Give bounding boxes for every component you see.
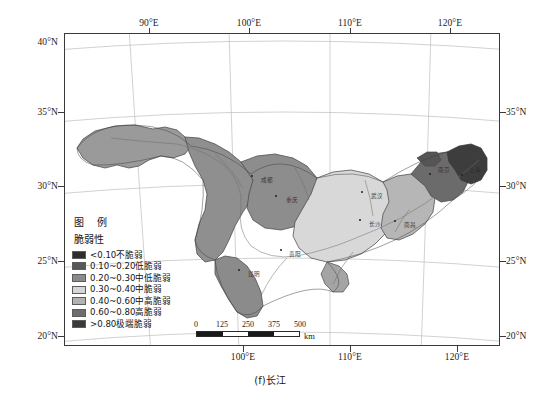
legend-item-1[interactable]: 0.10~0.20低脆弱 — [72, 261, 202, 273]
city-label-kunming: 昆明 — [248, 270, 260, 278]
tickmark-right-20n — [500, 336, 506, 337]
scale-bar-graphic — [196, 331, 300, 337]
tickmark-left-25n — [58, 261, 64, 262]
legend-item-3[interactable]: 0.30~0.40中脆弱 — [72, 284, 202, 296]
legend-item-2[interactable]: 0.20~0.30中低脆弱 — [72, 272, 202, 284]
scale-tick-0: 0 — [194, 320, 198, 329]
figure-caption: (f)长江 — [0, 372, 540, 387]
ytick-left-35n: 35°N — [24, 107, 58, 117]
city-dot-shanghai — [461, 174, 463, 176]
legend-item-4[interactable]: 0.40~0.60中高脆弱 — [72, 295, 202, 307]
tickmark-right-25n — [500, 261, 506, 262]
ytick-left-20n: 20°N — [24, 331, 58, 341]
tickmark-left-35n — [58, 112, 64, 113]
city-dot-guiyang — [280, 249, 282, 251]
city-dot-chongqing — [275, 195, 277, 197]
tickmark-top-120e — [450, 28, 451, 34]
xtick-top-110e: 110°E — [338, 18, 362, 28]
city-dot-nanjing — [429, 173, 431, 175]
ytick-right-30n: 30°N — [506, 181, 527, 191]
legend-swatch-3 — [72, 286, 86, 294]
tickmark-right-35n — [500, 112, 506, 113]
city-label-changsha: 长沙 — [369, 220, 381, 228]
legend-swatch-6 — [72, 320, 86, 328]
city-label-shanghai: 上海 — [469, 166, 481, 174]
legend-item-6[interactable]: >0.80极端脆弱 — [72, 319, 202, 331]
legend-label-1: 0.10~0.20低脆弱 — [90, 262, 162, 271]
xtick-bottom-100e: 100°E — [231, 352, 255, 362]
city-dot-kunming — [238, 269, 240, 271]
ytick-left-40n: 40°N — [24, 37, 58, 47]
legend-swatch-0 — [72, 251, 86, 259]
scale-tick-500: 500 — [294, 320, 306, 329]
scale-segment-1 — [223, 332, 249, 336]
city-label-chengdu: 成都 — [261, 176, 273, 184]
tickmark-left-30n — [58, 186, 64, 187]
tickmark-top-110e — [350, 28, 351, 34]
city-label-chongqing: 重庆 — [286, 196, 298, 204]
city-dot-nanchang — [394, 220, 396, 222]
city-dot-wuhan — [361, 191, 363, 193]
legend-item-0[interactable]: <0.10不脆弱 — [72, 249, 202, 261]
legend-label-4: 0.40~0.60中高脆弱 — [90, 297, 171, 306]
legend-label-5: 0.60~0.80高脆弱 — [90, 308, 162, 317]
map-legend[interactable]: 图 例 脆弱性 <0.10不脆弱 0.10~0.20低脆弱 0.20~0.30中… — [72, 214, 202, 330]
city-label-nanchang: 南昌 — [404, 221, 416, 229]
ytick-left-25n: 25°N — [24, 256, 58, 266]
tickmark-left-20n — [58, 336, 64, 337]
legend-swatch-5 — [72, 309, 86, 317]
xtick-top-100e: 100°E — [237, 18, 261, 28]
xtick-top-120e: 120°E — [438, 18, 462, 28]
city-label-nanjing: 南京 — [438, 166, 450, 174]
ytick-right-35n: 35°N — [506, 107, 527, 117]
scale-tick-250: 250 — [242, 320, 254, 329]
tickmark-right-30n — [500, 186, 506, 187]
city-dot-changsha — [359, 219, 361, 221]
tickmark-bottom-120e — [457, 346, 458, 352]
scale-tick-125: 125 — [216, 320, 228, 329]
scale-bar: 0 125 250 375 500 km — [196, 320, 300, 337]
tickmark-top-100e — [249, 28, 250, 34]
ytick-right-20n: 20°N — [506, 331, 527, 341]
scale-bar-ticks: 0 125 250 375 500 — [196, 320, 300, 331]
xtick-bottom-120e: 120°E — [445, 352, 469, 362]
legend-item-5[interactable]: 0.60~0.80高脆弱 — [72, 307, 202, 319]
legend-swatch-1 — [72, 262, 86, 270]
tickmark-bottom-100e — [243, 346, 244, 352]
legend-label-3: 0.30~0.40中脆弱 — [90, 285, 162, 294]
legend-subtitle: 脆弱性 — [72, 231, 202, 246]
legend-swatch-4 — [72, 297, 86, 305]
basin-region-south-tongue[interactable] — [321, 262, 349, 292]
city-label-wuhan: 武汉 — [371, 192, 383, 200]
scale-segment-0 — [197, 332, 223, 336]
ytick-right-25n: 25°N — [506, 256, 527, 266]
scale-segment-3 — [274, 332, 300, 336]
scale-segment-2 — [248, 332, 274, 336]
legend-label-2: 0.20~0.30中低脆弱 — [90, 274, 171, 283]
ytick-left-30n: 30°N — [24, 181, 58, 191]
legend-label-0: <0.10不脆弱 — [90, 251, 143, 260]
legend-swatch-2 — [72, 274, 86, 282]
city-label-guiyang: 贵阳 — [289, 250, 301, 258]
xtick-bottom-110e: 110°E — [338, 352, 362, 362]
city-dot-chengdu — [251, 175, 253, 177]
scale-bar-unit: km — [304, 331, 315, 341]
map-figure: 成都 重庆 武汉 长沙 南昌 南京 上海 昆明 贵阳 90°E 100°E 11… — [0, 0, 540, 403]
tickmark-bottom-110e — [350, 346, 351, 352]
legend-title: 图 例 — [72, 214, 202, 229]
tickmark-top-90e — [149, 28, 150, 34]
legend-label-6: >0.80极端脆弱 — [90, 320, 152, 329]
scale-tick-375: 375 — [268, 320, 280, 329]
xtick-top-90e: 90°E — [139, 18, 159, 28]
